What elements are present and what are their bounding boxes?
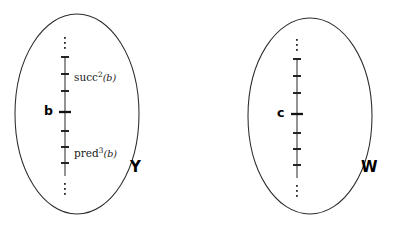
set-group-Y [15, 14, 139, 214]
chain-ellipsis-above-Y [64, 37, 66, 49]
set-label-W: W [361, 160, 378, 175]
chain-ellipsis-above-W [296, 39, 298, 51]
annotation-succ-base: succ [74, 71, 98, 83]
annotation-pred-label: pred3(b) [74, 148, 117, 159]
set-label-Y: Y [130, 160, 141, 175]
annotation-succ-argument: (b) [103, 72, 117, 83]
annotation-pred-argument: (b) [103, 148, 117, 159]
annotation-pred-base: pred [74, 147, 99, 159]
chain-ellipsis-below-W [296, 185, 298, 197]
chain-ellipsis-below-Y [64, 183, 66, 195]
set-outline-W [248, 18, 372, 214]
diagram-canvas: b Y succ2(b) pred3(b) c W [0, 0, 397, 236]
annotation-succ-label: succ2(b) [74, 72, 116, 83]
set-outline-Y [15, 14, 139, 214]
set-group-W [248, 18, 372, 214]
element-label-c: c [277, 107, 284, 120]
diagram-svg [0, 0, 397, 236]
element-label-b: b [44, 105, 53, 118]
